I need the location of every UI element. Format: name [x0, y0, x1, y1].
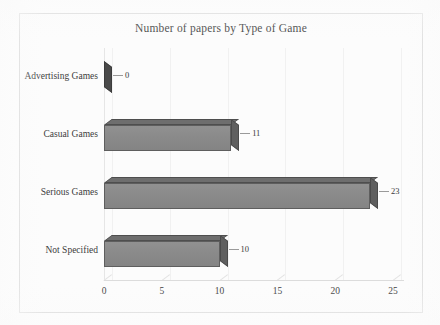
x-axis-line: [104, 280, 404, 281]
x-tick-label-0: 0: [89, 286, 119, 296]
category-label-casual-games: Casual Games: [2, 129, 98, 139]
category-label-serious-games: Serious Games: [2, 187, 98, 197]
data-label-leader-line: [240, 133, 250, 134]
x-tick-label-10: 10: [205, 286, 235, 296]
x-axis-tick-labels: 0510152025: [0, 286, 440, 302]
gridline-20: [343, 48, 344, 280]
chart-title: Number of papers by Type of Game: [19, 22, 423, 34]
gridline-25: [401, 48, 402, 280]
x-tick-label-5: 5: [147, 286, 177, 296]
bar-cap-face: [220, 235, 228, 267]
data-label-value: 11: [252, 128, 260, 138]
chart-page: Number of papers by Type of Game Adverti…: [0, 0, 440, 325]
data-label-leader-line: [229, 249, 239, 250]
bar-zero-sliver: [104, 61, 112, 93]
category-label-not-specified: Not Specified: [2, 245, 98, 255]
data-label-leader-line: [113, 75, 123, 76]
data-label-leader-line: [379, 191, 389, 192]
data-label-value: 23: [391, 186, 400, 196]
x-tick-label-15: 15: [262, 286, 292, 296]
gridline-15: [285, 48, 286, 280]
category-label-advertising-games: Advertising Games: [2, 71, 98, 81]
bar-front-face: [104, 241, 220, 267]
bar-cap-face: [370, 177, 378, 209]
x-tick-label-25: 25: [378, 286, 408, 296]
data-label-value: 10: [241, 244, 250, 254]
bar-front-face: [104, 183, 370, 209]
plot-area: 0112310: [104, 48, 404, 280]
bar-front-face: [104, 125, 231, 151]
y-axis-category-labels: Advertising GamesCasual GamesSerious Gam…: [0, 48, 98, 280]
x-tick-label-20: 20: [320, 286, 350, 296]
bar-cap-face: [231, 119, 239, 151]
data-label-value: 0: [125, 70, 129, 80]
